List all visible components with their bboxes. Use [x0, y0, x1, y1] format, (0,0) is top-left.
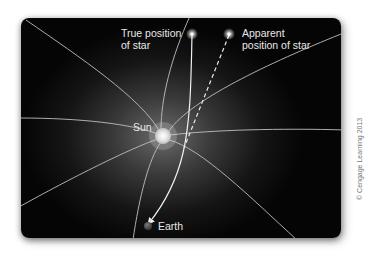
- apparent-star-label-line1: Apparent: [242, 27, 310, 39]
- field-lines: [21, 18, 341, 238]
- apparent-star-label: Apparent position of star: [242, 27, 310, 51]
- diagram-canvas: [21, 18, 341, 238]
- true-star-label-line2: of star: [121, 39, 181, 51]
- earth-label: Earth: [158, 220, 183, 232]
- diagram-panel: True position of star Apparent position …: [21, 18, 341, 238]
- true-star-icon: [190, 32, 193, 35]
- apparent-star-label-line2: position of star: [242, 39, 310, 51]
- earth-icon: [144, 222, 152, 230]
- true-star-label: True position of star: [121, 27, 181, 51]
- sun-label: Sun: [133, 121, 152, 133]
- apparent-star-icon: [227, 32, 230, 35]
- true-star-label-line1: True position: [121, 27, 181, 39]
- sun-icon: [155, 128, 171, 144]
- copyright-credit: © Cengage Learning 2013: [356, 118, 363, 200]
